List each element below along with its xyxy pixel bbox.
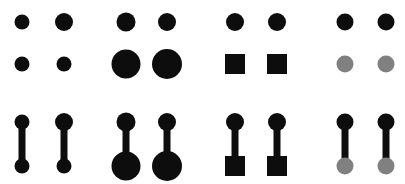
node-bottom-row-unconnected-size-col-1[interactable] xyxy=(112,50,141,79)
node-top-row-connected-size-col-1[interactable] xyxy=(117,113,136,132)
node-top-row-unconnected-color-col-1[interactable] xyxy=(337,14,354,31)
node-bottom-row-unconnected-color-col-1[interactable] xyxy=(337,56,354,73)
node-bottom-row-connected-color-col-1[interactable] xyxy=(337,158,354,175)
node-bottom-row-unconnected-color-col-2[interactable] xyxy=(378,56,395,73)
node-bottom-row-unconnected-size-col-2[interactable] xyxy=(152,49,182,79)
node-top-row-connected-baseline-col-1[interactable] xyxy=(15,115,30,130)
node-top-row-connected-color-col-1[interactable] xyxy=(337,114,354,131)
node-bottom-row-connected-size-col-2[interactable] xyxy=(152,151,182,181)
node-top-row-unconnected-baseline-col-1[interactable] xyxy=(15,15,30,30)
node-bottom-row-unconnected-shape-col-2[interactable] xyxy=(267,54,287,74)
node-bottom-row-connected-baseline-col-1[interactable] xyxy=(15,159,30,174)
node-top-row-unconnected-color-col-2[interactable] xyxy=(378,14,395,31)
node-bottom-row-connected-shape-col-1[interactable] xyxy=(225,156,245,176)
node-bottom-row-unconnected-shape-col-1[interactable] xyxy=(225,54,245,74)
node-top-row-unconnected-baseline-col-2[interactable] xyxy=(55,13,73,31)
node-top-row-connected-shape-col-1[interactable] xyxy=(226,113,244,131)
figure-root xyxy=(0,0,405,184)
node-top-row-unconnected-size-col-2[interactable] xyxy=(158,13,176,31)
node-pair-diagram xyxy=(0,0,405,184)
node-bottom-row-connected-size-col-1[interactable] xyxy=(112,152,141,181)
node-top-row-unconnected-size-col-1[interactable] xyxy=(117,13,136,32)
node-top-row-connected-baseline-col-2[interactable] xyxy=(55,113,73,131)
node-top-row-connected-shape-col-2[interactable] xyxy=(268,113,286,131)
node-bottom-row-connected-baseline-col-2[interactable] xyxy=(57,159,72,174)
node-bottom-row-unconnected-baseline-col-1[interactable] xyxy=(15,57,30,72)
node-top-row-connected-size-col-2[interactable] xyxy=(158,113,176,131)
node-bottom-row-connected-color-col-2[interactable] xyxy=(378,158,395,175)
node-top-row-connected-color-col-2[interactable] xyxy=(378,114,395,131)
node-bottom-row-unconnected-baseline-col-2[interactable] xyxy=(57,57,72,72)
node-top-row-unconnected-shape-col-1[interactable] xyxy=(226,13,244,31)
node-bottom-row-connected-shape-col-2[interactable] xyxy=(267,156,287,176)
node-top-row-unconnected-shape-col-2[interactable] xyxy=(268,13,286,31)
